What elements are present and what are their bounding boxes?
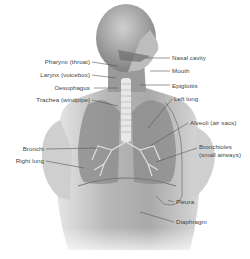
label-alveoli: Alveoli (air sacs) xyxy=(190,119,236,126)
label-mouth: Mouth xyxy=(172,67,189,74)
anatomy-illustration xyxy=(0,0,250,259)
label-pharynx: Pharynx (throat) xyxy=(30,58,90,65)
label-left-lung: Left lung xyxy=(174,95,198,102)
label-bronchioles-sub: (small airways) xyxy=(199,151,241,158)
label-pleura: Pleura xyxy=(176,198,194,205)
label-oesophagus: Oesophagus xyxy=(30,84,90,91)
label-right-lung: Right lung xyxy=(4,157,44,164)
label-bronchioles: Bronchioles xyxy=(199,143,232,150)
respiratory-diagram: Pharynx (throat) Larynx (voicebox) Oesop… xyxy=(0,0,250,259)
label-larynx: Larynx (voicebox) xyxy=(30,71,90,78)
label-trachea: Trachea (windpipe) xyxy=(28,96,90,103)
label-diaphragm: Diaphragm xyxy=(176,218,207,225)
label-epiglottis: Epiglottis xyxy=(172,82,198,89)
label-bronchi: Bronchi xyxy=(10,145,44,152)
label-nasal-cavity: Nasal cavity xyxy=(172,54,206,61)
